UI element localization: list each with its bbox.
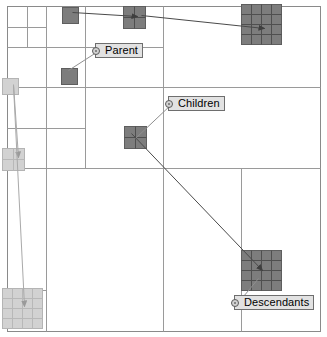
block-parent-small-top xyxy=(63,8,79,24)
callout-parent-text: Parent xyxy=(105,45,138,56)
block-descendants-bottom xyxy=(242,251,282,291)
callout-descendants[interactable]: Descendants xyxy=(234,295,314,310)
callout-descendants-anchor-icon xyxy=(231,299,239,307)
block-light-small-left xyxy=(3,79,19,95)
quadtree-figure: ParentChildrenDescendants xyxy=(0,0,327,337)
callout-parent[interactable]: Parent xyxy=(95,43,143,58)
block-children-top xyxy=(124,7,146,29)
callout-parent-anchor-icon xyxy=(92,47,100,55)
block-parent-small-top-fill xyxy=(63,8,79,24)
callout-descendants-text: Descendants xyxy=(244,297,309,308)
callout-children[interactable]: Children xyxy=(168,96,225,111)
diagram-canvas xyxy=(0,0,327,337)
callout-children-text: Children xyxy=(178,98,220,109)
block-light-small-left-fill xyxy=(3,79,19,95)
callout-children-leader-line xyxy=(136,104,173,139)
callout-children-anchor-icon xyxy=(165,100,173,108)
arrow-light-left-bottom xyxy=(14,86,25,307)
block-light-pair-left xyxy=(3,149,25,171)
block-light-grid-bottom xyxy=(3,289,43,329)
block-parent-small-fill xyxy=(62,69,78,85)
block-descendants-top xyxy=(242,5,282,45)
block-parent-small xyxy=(62,69,78,85)
arrow-children-center-to-descendants xyxy=(132,134,263,271)
